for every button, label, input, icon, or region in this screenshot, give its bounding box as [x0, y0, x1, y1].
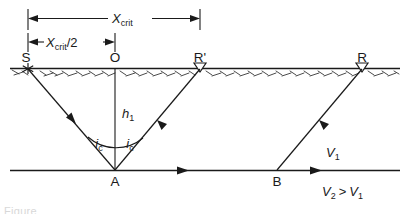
- arrow-right-icon: [105, 39, 115, 46]
- ray-direction-arrow-icon: [319, 120, 329, 130]
- figure-canvas: Xcrit Xcrit/2 S O R' R: [0, 0, 407, 214]
- arrow-left-icon: [28, 15, 38, 22]
- point-label-O: O: [110, 50, 121, 65]
- angle-label-ic-right: ic: [126, 136, 134, 153]
- dimension-x-crit-label: Xcrit: [111, 11, 133, 28]
- velocity-label-v1: V1: [326, 145, 340, 162]
- arrow-left-icon: [28, 39, 38, 46]
- ray-S-to-A: [28, 69, 115, 170]
- geophone-triangle-icon: [194, 63, 206, 72]
- dimension-x-crit: Xcrit: [28, 9, 200, 30]
- dimension-x-crit-half: Xcrit/2: [28, 33, 115, 52]
- angle-label-ic-left: ic: [95, 136, 103, 153]
- headwave-arrow-icon: [177, 167, 189, 175]
- ray-direction-arrow-icon: [157, 120, 167, 130]
- seismic-refraction-figure: Xcrit Xcrit/2 S O R' R: [0, 0, 407, 214]
- ray-B-to-R: [277, 69, 362, 170]
- headwave-arrow-icon: [310, 167, 322, 175]
- figure-caption-partial: Figure: [4, 205, 37, 214]
- point-label-B: B: [272, 174, 281, 189]
- depth-label-h1: h1: [122, 106, 134, 123]
- geophone-triangle-icon: [356, 63, 368, 72]
- point-label-S: S: [21, 50, 30, 65]
- point-label-A: A: [110, 174, 119, 189]
- arrow-right-icon: [190, 15, 200, 22]
- ground-hatching: [12, 70, 399, 76]
- velocity-relation-label: V2>V1: [322, 184, 363, 201]
- dimension-x-crit-half-label: Xcrit/2: [45, 35, 78, 52]
